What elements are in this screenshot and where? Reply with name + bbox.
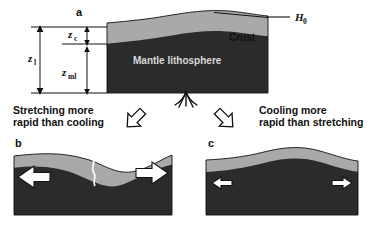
diagram-canvas: H 0 Crust Mantle lithosphere z xyxy=(0,0,370,226)
reference-level-sublabel: 0 xyxy=(303,17,307,26)
dimension-mantle-lithosphere-thickness: z ml xyxy=(61,46,90,95)
panel-c: c xyxy=(204,137,360,220)
crust-thickness-symbol: z xyxy=(67,28,73,40)
panel-c-letter: c xyxy=(208,137,214,149)
crust-thickness-subscript: c xyxy=(74,34,78,43)
mantle-thickness-subscript: ml xyxy=(68,72,76,81)
dimension-crust-thickness: z c xyxy=(62,26,107,46)
figure-lithosphere-stretching-diagram: H 0 Crust Mantle lithosphere z xyxy=(0,0,370,226)
transition-right-line2: rapid than stretching xyxy=(259,116,363,128)
lithosphere-thickness-subscript: l xyxy=(34,58,36,67)
panel-a-letter: a xyxy=(76,6,83,18)
panel-a: H 0 Crust Mantle lithosphere z xyxy=(27,6,307,107)
block-arrow-down-right-icon xyxy=(211,105,239,133)
transition-right: Cooling more rapid than stretching xyxy=(211,104,364,133)
block-arrow-down-left-icon xyxy=(121,105,149,133)
lithosphere-thickness-symbol: z xyxy=(27,52,33,64)
panel-b: b xyxy=(12,137,174,220)
dimension-lithosphere-thickness: z l xyxy=(27,25,107,95)
transition-left-line1: Stretching more xyxy=(13,104,94,116)
transition-right-line1: Cooling more xyxy=(259,104,327,116)
transition-left: Stretching more rapid than cooling xyxy=(13,104,149,133)
panel-b-letter: b xyxy=(15,137,22,149)
transition-left-line2: rapid than cooling xyxy=(13,116,104,128)
crust-label: Crust xyxy=(229,32,256,43)
mantle-thickness-symbol: z xyxy=(61,66,67,78)
mantle-lithosphere-label: Mantle lithosphere xyxy=(133,55,222,66)
